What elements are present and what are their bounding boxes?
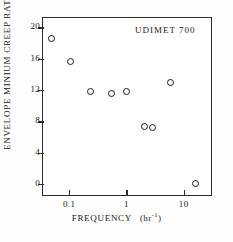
- x-axis-unit-close: ): [158, 213, 161, 223]
- x-tick-label: 10: [179, 199, 189, 210]
- y-tick-label: 20: [30, 20, 40, 32]
- data-point: [48, 35, 55, 42]
- y-axis-title: ENVELOPE MINIUM CREEP RATE (10-5sec-1): [2, 0, 12, 150]
- data-point: [67, 58, 74, 65]
- y-tick-label: 12: [30, 83, 40, 95]
- x-tick-mark: [69, 190, 70, 196]
- data-point: [167, 79, 174, 86]
- data-point: [108, 90, 115, 97]
- y-axis-title-text: ENVELOPE MINIUM CREEP RATE: [2, 0, 12, 150]
- x-tick-mark: [184, 190, 185, 196]
- data-point: [87, 88, 94, 95]
- data-point: [123, 88, 130, 95]
- x-axis-title: FREQUENCY (hr-1): [0, 213, 233, 223]
- y-tick-label: 4: [35, 146, 40, 158]
- x-tick-mark: [126, 190, 127, 196]
- x-axis-title-text: FREQUENCY: [72, 213, 132, 223]
- x-tick-label: 1: [124, 199, 129, 210]
- plot-area: UDIMET 700 048121620 0.1110: [42, 17, 212, 196]
- figure-canvas: UDIMET 700 048121620 0.1110 ENVELOPE MIN…: [0, 0, 233, 242]
- data-point: [141, 123, 148, 130]
- x-axis-unit: (hr-1): [135, 213, 162, 223]
- data-point: [149, 124, 156, 131]
- y-tick-label: 16: [30, 52, 40, 64]
- sample-annotation: UDIMET 700: [135, 25, 196, 35]
- x-tick-label: 0.1: [63, 199, 75, 210]
- y-tick-label: 8: [35, 114, 40, 126]
- data-point: [192, 180, 199, 187]
- y-tick-label: 0: [35, 177, 40, 189]
- x-axis-unit-open: (hr: [140, 213, 152, 223]
